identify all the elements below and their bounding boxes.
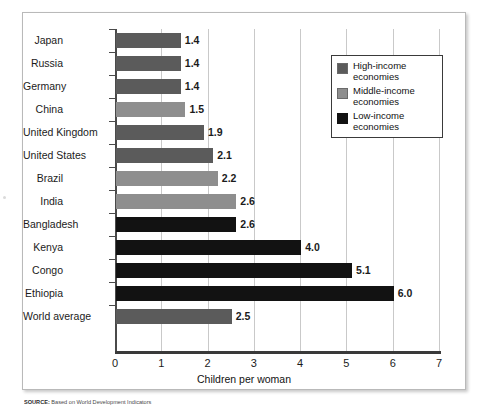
bar — [116, 56, 181, 71]
y-axis-tick — [109, 213, 115, 214]
x-tick-label-5: 5 — [334, 357, 358, 369]
bar-value-label: 1.9 — [208, 121, 223, 144]
x-tick-label-4: 4 — [288, 357, 312, 369]
y-axis-tick — [109, 29, 115, 30]
x-tick-label-1: 1 — [149, 357, 173, 369]
bar — [116, 171, 218, 186]
x-tick-label-2: 2 — [196, 357, 220, 369]
category-label: World average — [23, 305, 69, 328]
bar-value-label: 2.5 — [236, 305, 251, 328]
category-label: Russia — [23, 52, 69, 75]
category-label: Brazil — [23, 167, 69, 190]
bar — [116, 148, 213, 163]
bar-value-label: 1.4 — [185, 29, 200, 52]
bar-row: India2.6 — [23, 190, 465, 213]
y-axis-tick — [109, 259, 115, 260]
x-axis-line — [115, 351, 441, 354]
legend-label-line2: economies — [353, 96, 399, 107]
category-label: Japan — [23, 29, 69, 52]
bar-value-label: 1.4 — [185, 52, 200, 75]
legend-item-high[interactable]: High-incomeeconomies — [337, 61, 436, 82]
y-axis-tick — [109, 98, 115, 99]
bar-row: World average2.5 — [23, 305, 465, 328]
category-label: India — [23, 190, 69, 213]
legend-swatch-icon-low — [337, 113, 348, 124]
x-tick-label-0: 0 — [103, 357, 127, 369]
bar-row: Ethiopia6.0 — [23, 282, 465, 305]
legend-label-line1: High-income — [353, 60, 406, 71]
y-axis-tick — [109, 75, 115, 76]
legend-label: Middle-incomeeconomies — [353, 86, 415, 107]
bar — [116, 309, 232, 324]
bar-value-label: 6.0 — [398, 282, 413, 305]
legend-label-line1: Middle-income — [353, 85, 415, 96]
bar-value-label: 1.5 — [189, 98, 204, 121]
page-speck — [3, 196, 6, 199]
bar-value-label: 1.4 — [185, 75, 200, 98]
bar — [116, 263, 352, 278]
bar-value-label: 2.6 — [240, 213, 255, 236]
x-axis-title: Children per woman — [23, 373, 465, 385]
category-label: Congo — [23, 259, 69, 282]
category-label: Ethiopia — [23, 282, 69, 305]
y-axis-tick — [109, 236, 115, 237]
bar-row: Bangladesh2.6 — [23, 213, 465, 236]
category-label: United Kingdom — [23, 121, 69, 144]
figure-frame: Japan1.4Russia1.4Germany1.4China1.5Unite… — [22, 12, 466, 390]
bar-value-label: 2.2 — [222, 167, 237, 190]
bar — [116, 217, 236, 232]
bar — [116, 125, 204, 140]
y-axis-tick — [109, 121, 115, 122]
category-label: China — [23, 98, 69, 121]
x-axis-tick-labels: 01234567 — [115, 357, 439, 371]
legend-label-line1: Low-income — [353, 110, 404, 121]
y-axis-tick — [109, 282, 115, 283]
bar-value-label: 5.1 — [356, 259, 371, 282]
source-label: SOURCE: — [24, 399, 50, 405]
chart-legend: High-incomeeconomiesMiddle-incomeeconomi… — [331, 55, 443, 138]
x-tick-label-3: 3 — [242, 357, 266, 369]
bar-row: Japan1.4 — [23, 29, 465, 52]
category-label: Bangladesh — [23, 213, 69, 236]
category-label: Germany — [23, 75, 69, 98]
bar — [116, 33, 181, 48]
legend-swatch-icon-middle — [337, 88, 348, 99]
bar — [116, 102, 185, 117]
x-tick-label-6: 6 — [381, 357, 405, 369]
bar-row: Congo5.1 — [23, 259, 465, 282]
legend-label-line2: economies — [353, 71, 399, 82]
bar-row: Kenya4.0 — [23, 236, 465, 259]
bar — [116, 240, 301, 255]
legend-swatch-icon-high — [337, 63, 348, 74]
y-axis-tick — [109, 144, 115, 145]
bar — [116, 194, 236, 209]
category-label: United States — [23, 144, 69, 167]
bar-value-label: 4.0 — [305, 236, 320, 259]
y-axis-tick — [109, 190, 115, 191]
source-caption: SOURCE: Based on World Development Indic… — [24, 399, 464, 406]
legend-label: Low-incomeeconomies — [353, 111, 404, 132]
bar-value-label: 2.1 — [217, 144, 232, 167]
legend-label-line2: economies — [353, 121, 399, 132]
legend-item-middle[interactable]: Middle-incomeeconomies — [337, 86, 436, 107]
bar-value-label: 2.6 — [240, 190, 255, 213]
bar-row: Brazil2.2 — [23, 167, 465, 190]
bar-row: United States2.1 — [23, 144, 465, 167]
bar — [116, 79, 181, 94]
y-axis-tick — [109, 305, 115, 306]
category-label: Kenya — [23, 236, 69, 259]
source-text: Based on World Development Indicators — [51, 399, 151, 405]
bar — [116, 286, 394, 301]
y-axis-tick — [109, 167, 115, 168]
legend-item-low[interactable]: Low-incomeeconomies — [337, 111, 436, 132]
x-tick-label-7: 7 — [427, 357, 451, 369]
legend-label: High-incomeeconomies — [353, 61, 406, 82]
y-axis-tick — [109, 52, 115, 53]
